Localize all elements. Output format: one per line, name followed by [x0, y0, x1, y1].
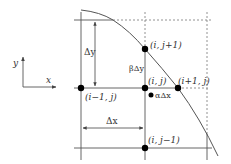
node-left: [78, 85, 84, 91]
node-top: [142, 46, 148, 52]
beta-delta-y-label: βΔy: [129, 64, 144, 73]
node-label-left: (i−1, j): [85, 92, 117, 102]
node-label-center: (i, j): [148, 76, 167, 86]
axes-indicator: y x: [12, 57, 56, 87]
alpha-marker-dot: [149, 93, 154, 98]
y-axis-label: y: [12, 58, 19, 68]
finite-difference-diagram: y x Δy Δx βΔy αΔx: [0, 0, 231, 164]
dimension-arrows: [83, 22, 143, 128]
node-label-bottom: (i, j−1): [148, 135, 180, 145]
delta-x-label: Δx: [106, 116, 118, 126]
x-axis-label: x: [46, 75, 51, 85]
node-bottom: [142, 145, 148, 151]
node-label-top: (i, j+1): [150, 40, 182, 50]
node-label-right: (i+1, j): [178, 76, 210, 86]
delta-y-label: Δy: [84, 47, 96, 57]
alpha-delta-x-label: αΔx: [155, 91, 171, 100]
